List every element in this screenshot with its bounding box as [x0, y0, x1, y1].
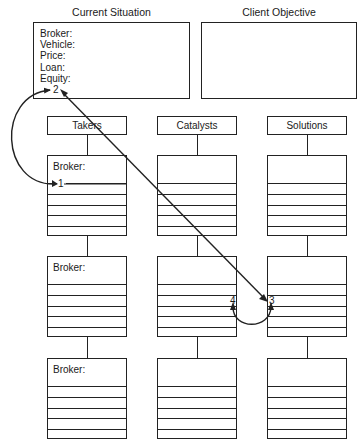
arrowhead-2: [60, 89, 68, 97]
flow-arrows: [0, 0, 363, 445]
arrowhead-4: [230, 302, 236, 310]
arrowhead-3b: [268, 302, 274, 310]
u-arrow-4-3: [233, 307, 271, 324]
diagonal-arrow-2-to-3: [63, 93, 265, 299]
arc-arrow-1-to-2: [12, 90, 55, 184]
arrowhead-1: [52, 180, 58, 187]
